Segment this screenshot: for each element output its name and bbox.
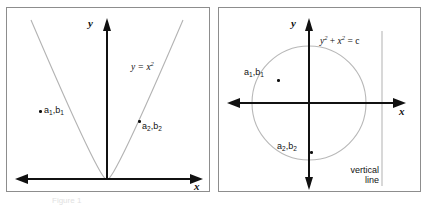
vertical-line-annotation-line2: line xyxy=(331,175,379,185)
point-label-2: a2,b2 xyxy=(142,122,162,131)
point-label-1-a-sub: 1 xyxy=(249,71,253,78)
point-label-2-a-sub: 2 xyxy=(147,125,151,132)
point-label-1-a-sub: 1 xyxy=(49,109,53,116)
parabola-equation-text: y = x xyxy=(131,62,151,72)
x-axis-arrowhead-left xyxy=(15,174,28,184)
vertical-line-annotation-line1: vertical xyxy=(331,165,379,175)
point-marker-1 xyxy=(39,110,42,113)
circle-equation-exp1: 2 xyxy=(324,34,327,41)
point-marker-1 xyxy=(277,79,280,82)
point-marker-2 xyxy=(138,120,141,123)
circle-equation-exp2: 2 xyxy=(342,34,345,41)
point-label-2: a2,b2 xyxy=(277,142,297,151)
panel-parabola: y x y = x2 a1,b1 a2,b2 xyxy=(6,7,210,192)
point-label-2-a-sub: 2 xyxy=(282,145,286,152)
y-axis-label: y xyxy=(291,18,296,29)
figure-caption: Figure 1 xyxy=(52,196,81,205)
parabola-equation-label: y = x2 xyxy=(131,63,154,73)
circle-equation-label: y2 + x2 = c xyxy=(320,37,359,47)
figure-root: y x y = x2 a1,b1 a2,b2 xyxy=(0,0,430,207)
point-label-2-b-sub: 2 xyxy=(293,145,297,152)
parabola-plot xyxy=(7,8,211,193)
point-label-1-b-sub: 1 xyxy=(60,109,64,116)
caption-strip: Figure 1 xyxy=(0,196,430,207)
y-axis-arrowhead xyxy=(103,18,111,31)
x-axis-label: x xyxy=(399,106,405,117)
point-label-1: a1,b1 xyxy=(244,68,264,77)
x-axis-arrowhead-left xyxy=(227,98,240,108)
circle-equation-plus: + xyxy=(327,36,337,46)
point-label-2-b-sub: 2 xyxy=(158,125,162,132)
y-axis-arrowhead-top xyxy=(305,18,313,31)
circle-equation-rhs: = c xyxy=(345,36,359,46)
parabola-equation-exponent: 2 xyxy=(151,60,154,67)
panel-circle: y x y2 + x2 = c a1,b1 a2,b2 vertical lin… xyxy=(218,7,421,192)
y-axis-label: y xyxy=(88,18,93,29)
x-axis-label: x xyxy=(194,181,200,192)
point-label-1: a1,b1 xyxy=(44,106,64,115)
y-axis-arrowhead-bottom xyxy=(305,177,313,190)
point-marker-2 xyxy=(310,151,313,154)
vertical-line-annotation: vertical line xyxy=(331,165,379,186)
point-label-1-b-sub: 1 xyxy=(260,71,264,78)
